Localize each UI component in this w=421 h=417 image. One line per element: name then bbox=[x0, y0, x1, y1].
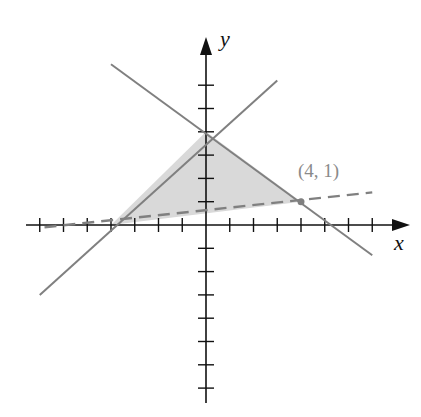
coordinate-plane bbox=[0, 0, 421, 417]
chart: x y (4, 1) bbox=[0, 0, 421, 417]
y-axis-label: y bbox=[220, 26, 230, 52]
point-annotation: (4, 1) bbox=[298, 160, 339, 182]
x-axis-label: x bbox=[394, 230, 404, 256]
y-axis-arrow-icon bbox=[200, 37, 212, 55]
vertex-point bbox=[298, 198, 305, 205]
